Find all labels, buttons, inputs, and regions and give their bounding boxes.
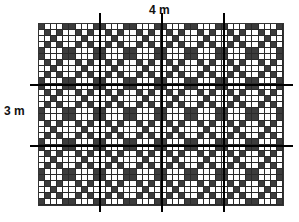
meter-line-horizontal (30, 84, 293, 86)
dimension-label-width: 4 m (149, 4, 170, 16)
meter-line-vertical (161, 13, 163, 212)
meter-line-vertical (99, 13, 101, 212)
meter-line-horizontal (30, 145, 293, 147)
meter-line-vertical (223, 13, 225, 212)
dimension-label-height: 3 m (4, 105, 25, 117)
grid-cell-dark (277, 199, 283, 205)
